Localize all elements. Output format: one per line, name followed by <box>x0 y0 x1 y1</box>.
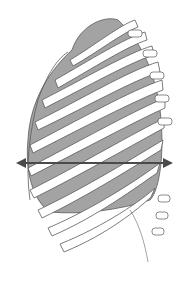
rib-cage-drawing <box>0 0 184 288</box>
spine-lower <box>130 210 148 262</box>
rib-cage-illustration <box>0 0 184 288</box>
arrowhead-right-icon <box>163 158 173 168</box>
arrowhead-left-icon <box>16 158 26 168</box>
